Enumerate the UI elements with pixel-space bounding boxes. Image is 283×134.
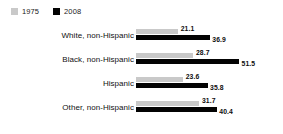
bar-value-1975: 28.7 xyxy=(196,50,210,57)
bar-row-1975: 21.1 xyxy=(136,29,194,34)
bar-pair: 21.1 36.9 xyxy=(136,24,283,48)
bar-value-1975: 23.6 xyxy=(186,74,200,81)
bar-pair: 31.7 40.4 xyxy=(136,96,283,120)
legend-label-1975: 1975 xyxy=(22,8,39,16)
bar-row-1975: 23.6 xyxy=(136,77,199,82)
bar-row-2008: 36.9 xyxy=(136,35,226,40)
bar-value-2008: 40.4 xyxy=(219,109,233,116)
bar-pair: 23.6 35.8 xyxy=(136,72,283,96)
bar-group: Other, non-Hispanic 31.7 40.4 xyxy=(0,96,283,120)
bar-row-2008: 40.4 xyxy=(136,107,233,112)
category-label: White, non-Hispanic xyxy=(0,32,136,40)
bar-2008 xyxy=(136,107,217,112)
legend-label-2008: 2008 xyxy=(64,8,81,16)
bar-1975 xyxy=(136,53,193,58)
bar-row-1975: 28.7 xyxy=(136,53,210,58)
bar-row-2008: 51.5 xyxy=(136,59,255,64)
bar-group: Hispanic 23.6 35.8 xyxy=(0,72,283,96)
plot-area: White, non-Hispanic 21.1 36.9 Black, non… xyxy=(0,24,283,120)
legend-item-1975: 1975 xyxy=(11,8,39,16)
bar-value-2008: 35.8 xyxy=(210,85,224,92)
bar-2008 xyxy=(136,83,208,88)
legend-item-2008: 2008 xyxy=(53,8,81,16)
bar-1975 xyxy=(136,77,183,82)
bar-value-1975: 21.1 xyxy=(181,26,195,33)
category-label: Hispanic xyxy=(0,80,136,88)
category-label: Black, non-Hispanic xyxy=(0,56,136,64)
bar-row-1975: 31.7 xyxy=(136,101,216,106)
bar-row-2008: 35.8 xyxy=(136,83,224,88)
category-label: Other, non-Hispanic xyxy=(0,104,136,112)
bar-2008 xyxy=(136,35,210,40)
bar-value-2008: 51.5 xyxy=(242,61,256,68)
legend-swatch-square-gray-icon xyxy=(11,8,18,15)
bar-pair: 28.7 51.5 xyxy=(136,48,283,72)
bar-1975 xyxy=(136,29,178,34)
bar-chart: 1975 2008 White, non-Hispanic 21.1 36.9 … xyxy=(0,0,283,134)
chart-legend: 1975 2008 xyxy=(11,8,81,16)
bar-group: Black, non-Hispanic 28.7 51.5 xyxy=(0,48,283,72)
bar-value-1975: 31.7 xyxy=(202,98,216,105)
bar-1975 xyxy=(136,101,199,106)
bar-group: White, non-Hispanic 21.1 36.9 xyxy=(0,24,283,48)
bar-2008 xyxy=(136,59,239,64)
bar-value-2008: 36.9 xyxy=(212,37,226,44)
legend-swatch-square-black-icon xyxy=(53,8,60,15)
